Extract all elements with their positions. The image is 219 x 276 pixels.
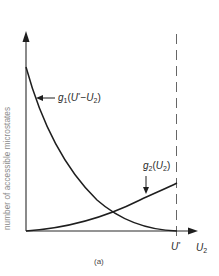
figure-caption: (a) [94,257,104,266]
g1-arg-u: U [71,92,78,103]
u-star-label: U* [171,241,181,252]
x-axis-arrow-icon [188,228,198,235]
g2-pointer-arrow [143,176,149,194]
arrow-down-icon [143,187,149,194]
y-axis [23,31,30,231]
u-star-sup: * [178,241,180,247]
g1-paren-close: ) [97,92,100,103]
g2-curve [26,183,177,231]
g1-label: g1(U*−U2) [58,92,101,104]
g2-paren-close: ) [167,160,170,171]
diagram-canvas [0,0,219,276]
g1-pointer-arrow [36,95,55,101]
y-axis-arrow-icon [23,31,30,42]
g2-label: g2(U2) [143,161,170,172]
y-axis-label: number of accessible microstates [3,70,15,230]
x-axis-label-sub: 2 [203,247,207,254]
g1-curve [26,67,177,231]
g2-arg-u: U [156,160,163,171]
x-axis-label: U2 [196,243,207,254]
